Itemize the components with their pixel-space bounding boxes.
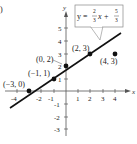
intercept-numerator: 5: [115, 8, 118, 14]
equation-callout: y = 2 3 x + 5 3: [75, 5, 123, 40]
part-label: ): [0, 5, 3, 14]
y-tick-label: 2: [58, 63, 62, 71]
equation-var: x +: [97, 12, 109, 21]
y-tick-label: 4: [58, 38, 62, 46]
y-tick-label: 3: [58, 51, 62, 59]
point-label: (0, 2): [36, 55, 54, 64]
y-tick-label: 5: [58, 25, 62, 33]
y-tick-label: -1: [54, 101, 60, 109]
point-label: (4, 3): [100, 57, 118, 66]
x-tick-label: 4: [113, 95, 117, 103]
data-point: [113, 52, 118, 57]
point-label: (−3, 0): [3, 80, 25, 89]
x-axis-arrow-icon: [125, 89, 131, 93]
data-point: [64, 64, 69, 69]
y-tick-label: 1: [58, 76, 62, 84]
intercept-denominator: 3: [115, 17, 118, 23]
x-tick-label: 2: [88, 95, 92, 103]
slope-denominator: 3: [93, 17, 96, 23]
y-axis-label: y: [62, 4, 67, 12]
scatter-plot: ) x -4 -2 -1 1 2 3 4 y: [0, 0, 137, 144]
slope-numerator: 2: [93, 8, 96, 14]
data-point: [52, 77, 57, 82]
equation-prefix: y =: [77, 12, 88, 21]
x-axis: x -4 -2 -1 1 2 3 4: [5, 88, 136, 103]
y-tick-label: -2: [54, 114, 60, 122]
x-tick-label: -2: [36, 95, 42, 103]
point-label: (2, 3): [72, 44, 90, 53]
x-axis-label: x: [131, 88, 136, 96]
x-tick-label: 1: [76, 95, 80, 103]
point-label: (−1, 1): [28, 69, 50, 78]
data-point: [27, 89, 32, 94]
x-tick-label: -4: [11, 95, 17, 103]
y-tick-label: -3: [54, 126, 60, 134]
x-tick-label: 3: [101, 95, 105, 103]
